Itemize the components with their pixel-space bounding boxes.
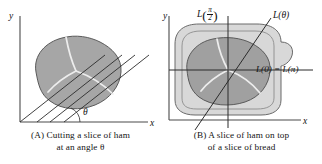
- panel-b-caption-line1: (B) A slice of ham on top: [161, 130, 322, 142]
- panel-b-caption: (B) A slice of ham on top of a slice of …: [161, 130, 322, 153]
- panel-a-caption-line1: (A) Cutting a slice of ham: [0, 130, 161, 142]
- panel-a-caption: (A) Cutting a slice of ham at an angle θ: [0, 130, 161, 153]
- panel-b-label-L-pi-over-2: L(π2): [197, 7, 218, 23]
- panel-a-y-axis-label: y: [9, 12, 13, 22]
- panel-b-x-axis-label: x: [303, 117, 307, 127]
- panel-a-x-axis-label: x: [150, 119, 154, 129]
- panel-a-diagram: [0, 0, 161, 132]
- panel-a-theta-label: θ: [83, 108, 88, 118]
- two-denominator: 2: [207, 15, 213, 23]
- panel-b-label-L-zero: L(0) = L(π): [256, 65, 298, 74]
- panel-b-y-axis-label: y: [163, 12, 167, 22]
- panel-b-caption-line2: of a slice of bread: [161, 142, 322, 154]
- panel-b: y x L(π2) L(θ) L(0) = L(π) (B) A slice o…: [161, 0, 322, 164]
- panel-a: y x θ (A) Cutting a slice of ham at an a…: [0, 0, 161, 164]
- panel-a-caption-line2: at an angle θ: [0, 142, 161, 154]
- figure-ham-sandwich: y x θ (A) Cutting a slice of ham at an a…: [0, 0, 322, 164]
- panel-b-label-L-theta: L(θ): [273, 11, 289, 21]
